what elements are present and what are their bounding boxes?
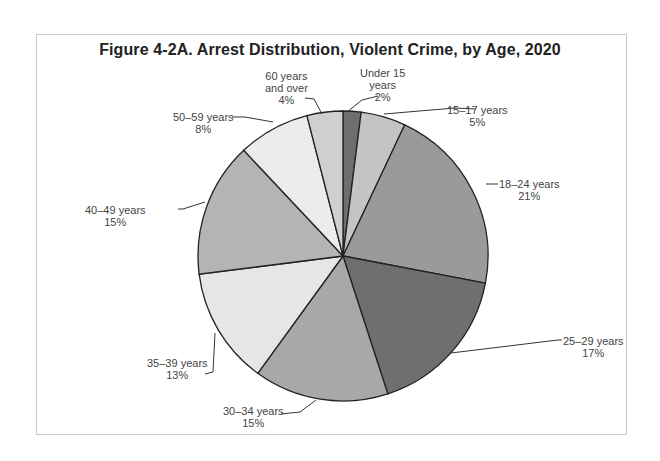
label-40-49: 40–49 years15% [85, 204, 146, 228]
label-60-plus: 60 yearsand over4% [265, 70, 308, 106]
leader-line [281, 400, 316, 414]
leader-line [178, 202, 205, 209]
leader-line [451, 340, 562, 353]
label-50-59: 50–59 years8% [173, 111, 234, 135]
label-30-34: 30–34 years15% [223, 405, 284, 429]
label-25-29: 25–29 years17% [563, 335, 624, 359]
label-35-39: 35–39 years13% [147, 357, 208, 381]
label-15-17: 15–17 years5% [447, 104, 508, 128]
leader-line [232, 117, 273, 122]
label-18-24: 18–24 years21% [499, 178, 560, 202]
pie-chart [0, 0, 660, 461]
label-under-15: Under 15years2% [360, 67, 405, 103]
